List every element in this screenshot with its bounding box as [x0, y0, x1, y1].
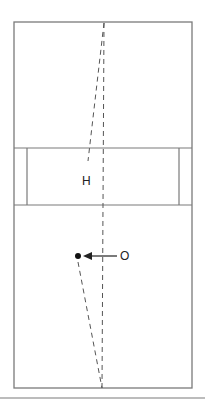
upper-slanted-dashed-line	[88, 23, 104, 161]
player-dot-marker	[75, 253, 81, 259]
lower-slanted-dashed-line	[78, 262, 102, 388]
label-h: H	[82, 175, 91, 187]
court-diagram	[0, 0, 205, 406]
arrowhead-icon	[83, 252, 92, 260]
label-o: O	[120, 250, 129, 262]
